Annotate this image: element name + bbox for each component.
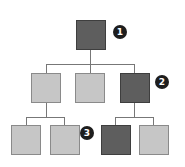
node-level1-right bbox=[120, 73, 150, 103]
node-level1-left bbox=[31, 73, 61, 103]
tree-diagram: 1 2 3 bbox=[0, 0, 185, 167]
node-level2-a bbox=[11, 125, 41, 155]
node-level1-middle bbox=[75, 73, 105, 103]
node-level2-b bbox=[50, 125, 80, 155]
callout-badge-3: 3 bbox=[80, 126, 94, 140]
node-level2-c bbox=[101, 125, 131, 155]
node-level2-d bbox=[139, 125, 169, 155]
callout-badge-1: 1 bbox=[113, 25, 127, 39]
callout-badge-2: 2 bbox=[155, 75, 169, 89]
node-root bbox=[76, 20, 106, 50]
